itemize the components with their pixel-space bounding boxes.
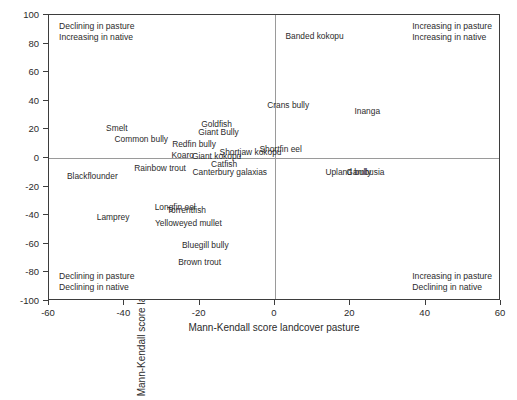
x-tick--60: [48, 300, 49, 305]
zero-line-horizontal: [49, 158, 499, 159]
y-tick-label--80: -80: [25, 266, 39, 277]
x-tick--20: [199, 300, 200, 305]
point-label-inanga: Inanga: [354, 107, 380, 115]
y-tick-label--40: -40: [25, 209, 39, 220]
point-label-yelloweyed-mullet: Yelloweyed mullet: [155, 219, 222, 227]
annotation-bottom-right-line2: Declining in native: [412, 282, 492, 293]
point-label-shortfin-eel: Shortfin eel: [259, 145, 301, 153]
annotation-bottom-left-line2: Declining in native: [59, 282, 134, 293]
point-label-canterbury-galaxias: Canterbury galaxias: [193, 167, 267, 175]
x-tick-60: [500, 300, 501, 305]
annotation-top-right-line2: Increasing in native: [412, 32, 492, 43]
annotation-bottom-right-line1: Increasing in pasture: [412, 271, 492, 282]
x-tick-label-0: 0: [271, 307, 276, 318]
x-tick-20: [349, 300, 350, 305]
point-label-blackflounder: Blackflounder: [67, 172, 118, 180]
y-tick-label-100: 100: [23, 9, 39, 20]
y-tick-label--20: -20: [25, 180, 39, 191]
point-label-koaro: Koaro: [172, 151, 194, 159]
point-label-crans-bully: Crans bully: [267, 101, 309, 109]
point-label-gambusia: Gambusia: [346, 167, 384, 175]
x-tick--40: [123, 300, 124, 305]
annotation-top-left: Declining in pasture Increasing in nativ…: [59, 21, 134, 43]
point-label-rainbow-trout: Rainbow trout: [134, 164, 186, 172]
zero-line-vertical: [275, 15, 276, 299]
annotation-top-right-line1: Increasing in pasture: [412, 21, 492, 32]
x-tick-label--40: -40: [116, 307, 130, 318]
x-tick-label--60: -60: [41, 307, 55, 318]
x-tick-label-20: 20: [344, 307, 355, 318]
y-tick-label--100: -100: [20, 295, 39, 306]
annotation-top-left-line2: Increasing in native: [59, 32, 134, 43]
point-label-bluegill-bully: Bluegill bully: [182, 240, 229, 248]
annotation-top-left-line1: Declining in pasture: [59, 21, 134, 32]
figure-caption: [30, 337, 500, 345]
y-tick-label-20: 20: [28, 123, 39, 134]
annotation-top-right: Increasing in pasture Increasing in nati…: [412, 21, 492, 43]
annotation-bottom-right: Increasing in pasture Declining in nativ…: [412, 271, 492, 293]
x-tick-0: [274, 300, 275, 305]
y-tick-label-80: 80: [28, 37, 39, 48]
y-tick-label-0: 0: [34, 152, 39, 163]
point-label-smelt: Smelt: [106, 124, 127, 132]
point-label-lamprey: Lamprey: [97, 212, 130, 220]
x-axis-title: Mann-Kendall score landcover pasture: [48, 322, 500, 333]
x-tick-label--20: -20: [192, 307, 206, 318]
x-tick-label-40: 40: [419, 307, 430, 318]
x-tick-label-60: 60: [495, 307, 506, 318]
point-label-common-bully: Common bully: [115, 134, 169, 142]
point-label-giant-bully: Giant Bully: [198, 128, 239, 136]
point-label-banded-kokopu: Banded kokopu: [285, 32, 343, 40]
annotation-bottom-left-line1: Declining in pasture: [59, 271, 134, 282]
annotation-bottom-left: Declining in pasture Declining in native: [59, 271, 134, 293]
point-label-brown-trout: Brown trout: [178, 258, 221, 266]
point-label-torrentfish: Torrentfish: [167, 206, 206, 214]
point-label-redfin-bully: Redfin bully: [172, 140, 216, 148]
y-tick-label--60: -60: [25, 237, 39, 248]
x-tick-40: [425, 300, 426, 305]
plot-area: Declining in pasture Increasing in nativ…: [48, 14, 500, 300]
y-tick-label-40: 40: [28, 94, 39, 105]
y-tick-label-60: 60: [28, 66, 39, 77]
